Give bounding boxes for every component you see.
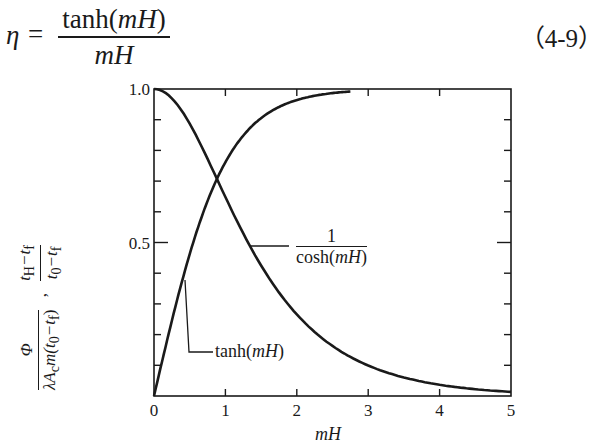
comma: , — [31, 293, 50, 297]
svg-text:4: 4 — [435, 401, 444, 420]
x-axis-label: mH — [315, 424, 341, 445]
sub-c: c — [47, 366, 63, 372]
t: t — [15, 276, 34, 281]
paren-close: ) — [40, 310, 59, 316]
cosh-text: cosh( — [296, 247, 335, 267]
lambda-a: λA — [40, 372, 59, 390]
temp-denominator: t0−tf — [41, 245, 67, 281]
m-t: m(t — [40, 343, 59, 366]
svg-text:1: 1 — [221, 401, 230, 420]
minus-t: −t — [42, 251, 61, 267]
svg-text:2: 2 — [293, 401, 302, 420]
svg-text:5: 5 — [507, 401, 516, 420]
mh-text: mH — [252, 341, 278, 361]
mh-text: mH — [335, 247, 361, 267]
sech-numerator: 1 — [296, 226, 367, 246]
sub-0: 0 — [49, 267, 65, 274]
svg-text:1.0: 1.0 — [129, 80, 150, 99]
t: t — [42, 275, 61, 280]
minus-t: −t — [40, 320, 59, 336]
sub-0: 0 — [47, 336, 63, 343]
temp-numerator: tH−tf — [14, 245, 40, 281]
tanh-annotation: tanh(mH) — [215, 341, 284, 362]
sub-f: f — [47, 315, 63, 320]
paren-close: ) — [278, 341, 284, 361]
sech-denominator: cosh(mH) — [296, 247, 367, 267]
sub-f: f — [21, 245, 37, 250]
svg-text:0: 0 — [150, 401, 159, 420]
sub-h: H — [21, 266, 37, 276]
phi-symbol: Φ — [16, 310, 38, 390]
tanh-text: tanh( — [215, 341, 252, 361]
temp-fraction: tH−tf t0−tf — [14, 245, 68, 281]
tanh-leader-line — [185, 280, 213, 352]
sub-f: f — [49, 247, 65, 252]
minus-t: −t — [15, 250, 34, 266]
paren-close: ) — [361, 247, 367, 267]
phi-denominator: λAcm(t0−tf) — [39, 310, 65, 390]
phi-fraction: Φ λAcm(t0−tf) — [16, 310, 65, 390]
y-axis-label: Φ λAcm(t0−tf) , tH−tf t0−tf — [14, 230, 70, 390]
chart-plot: 0123450.51.0 — [0, 0, 613, 445]
svg-text:3: 3 — [364, 401, 373, 420]
svg-text:0.5: 0.5 — [129, 234, 150, 253]
sech-annotation: 1 cosh(mH) — [296, 226, 367, 268]
